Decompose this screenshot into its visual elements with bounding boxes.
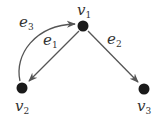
label-v1: v1 bbox=[77, 1, 91, 20]
edge-e1 bbox=[29, 31, 79, 81]
label-v3: v3 bbox=[137, 97, 151, 116]
label-e3: e3 bbox=[19, 13, 34, 32]
node-v1 bbox=[78, 21, 89, 32]
label-e1: e1 bbox=[43, 31, 58, 50]
label-e2: e2 bbox=[107, 30, 122, 49]
node-v2 bbox=[17, 83, 28, 94]
label-v2: v2 bbox=[15, 97, 29, 116]
graph-diagram: v1 v2 v3 e3 e1 e2 bbox=[0, 0, 161, 124]
node-v3 bbox=[139, 84, 150, 95]
